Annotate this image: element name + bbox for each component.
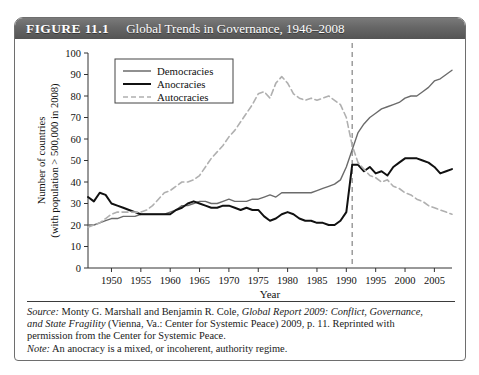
note-label: Note: xyxy=(27,343,50,354)
x-axis-title: Year xyxy=(260,288,281,300)
y-tick-label-3: 30 xyxy=(71,198,82,209)
source-line-2: and State Fragility (Vienna, Va.: Center… xyxy=(27,318,455,330)
figure-title: Global Trends in Governance, 1946–2008 xyxy=(126,21,344,37)
x-tick-label-7: 1985 xyxy=(306,275,327,286)
x-tick-label-1: 1955 xyxy=(130,275,151,286)
x-tick-label-4: 1970 xyxy=(218,275,239,286)
legend-label-democracies: Democracies xyxy=(157,65,213,77)
y-tick-label-8: 80 xyxy=(71,91,82,102)
x-tick-label-2: 1960 xyxy=(160,275,181,286)
note-line: Note: An anocracy is a mixed, or incoher… xyxy=(27,343,455,355)
source-line-3: permission from the Center for Systemic … xyxy=(27,330,455,342)
x-tick-label-10: 2000 xyxy=(395,275,416,286)
caption-block: Source: Monty G. Marshall and Benjamin R… xyxy=(15,301,465,355)
figure-header-bar: FIGURE 11.1 Global Trends in Governance,… xyxy=(15,18,465,39)
y-axis-title-line-1: Number of countries xyxy=(36,117,47,205)
line-chart: 0102030405060708090100195019551960196519… xyxy=(15,39,466,311)
source-italic-1: Global Report 2009: Conflict, Governance… xyxy=(242,306,423,317)
y-tick-label-2: 20 xyxy=(71,220,82,231)
source-text-2: (Vienna, Va.: Center for Systemic Peace)… xyxy=(106,318,395,329)
x-tick-label-5: 1975 xyxy=(248,275,269,286)
series-line-anocracies xyxy=(88,158,452,225)
y-tick-label-0: 0 xyxy=(76,263,81,274)
note-text: An anocracy is a mixed, or incoherent, a… xyxy=(50,343,287,354)
x-tick-label-8: 1990 xyxy=(336,275,357,286)
y-tick-label-10: 100 xyxy=(65,48,81,59)
chart-plot-area: 0102030405060708090100195019551960196519… xyxy=(15,39,466,311)
y-tick-label-6: 60 xyxy=(71,134,82,145)
figure-container: FIGURE 11.1 Global Trends in Governance,… xyxy=(14,17,466,361)
source-italic-2: and State Fragility xyxy=(27,318,106,329)
x-tick-label-6: 1980 xyxy=(277,275,298,286)
y-tick-label-1: 10 xyxy=(71,241,82,252)
x-tick-label-0: 1950 xyxy=(101,275,122,286)
y-tick-label-4: 40 xyxy=(71,177,82,188)
x-tick-label-9: 1995 xyxy=(365,275,386,286)
x-tick-label-3: 1965 xyxy=(189,275,210,286)
x-tick-label-11: 2005 xyxy=(424,275,445,286)
source-line-1: Source: Monty G. Marshall and Benjamin R… xyxy=(27,306,455,318)
y-tick-label-7: 70 xyxy=(71,112,82,123)
legend-label-anocracies: Anocracies xyxy=(157,78,206,90)
source-label: Source: xyxy=(27,306,59,317)
y-tick-label-5: 50 xyxy=(71,155,82,166)
y-tick-label-9: 90 xyxy=(71,69,82,80)
caption-divider xyxy=(27,301,455,302)
source-text-1: Monty G. Marshall and Benjamin R. Cole, xyxy=(59,306,242,317)
y-axis-title-line-2: (with population > 500,000 in 2008) xyxy=(49,83,61,238)
figure-number: FIGURE 11.1 xyxy=(26,21,109,37)
legend-label-autocracies: Autocracies xyxy=(157,91,209,103)
